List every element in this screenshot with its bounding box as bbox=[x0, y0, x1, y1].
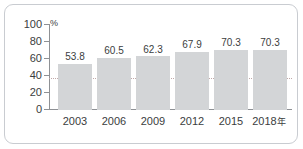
x-axis-unit-label: 年 bbox=[277, 117, 286, 127]
bar-2009[interactable] bbox=[136, 56, 170, 110]
bar-2012[interactable] bbox=[175, 52, 209, 110]
y-tick-100 bbox=[44, 24, 49, 25]
x-tick-label-2018-year: 2018 bbox=[252, 115, 276, 127]
y-axis-unit-label: % bbox=[50, 19, 58, 28]
x-tick-label-2018: 2018年 bbox=[239, 115, 299, 128]
y-tick-label-40: 40 bbox=[2, 70, 42, 81]
bar-group-2012: 67.9 bbox=[175, 24, 209, 110]
bar-value-2018: 70.3 bbox=[247, 38, 293, 48]
y-axis-line bbox=[49, 24, 50, 110]
chart-card: % 100 80 60 40 20 0 53.8 60.5 62.3 bbox=[4, 4, 298, 144]
bar-chart: % 100 80 60 40 20 0 53.8 60.5 62.3 bbox=[5, 5, 299, 145]
bar-2003[interactable] bbox=[58, 64, 92, 110]
y-tick-40 bbox=[44, 75, 49, 76]
y-tick-0 bbox=[44, 109, 49, 110]
y-tick-60 bbox=[44, 58, 49, 59]
y-tick-20 bbox=[44, 92, 49, 93]
y-tick-80 bbox=[44, 41, 49, 42]
bar-group-2009: 62.3 bbox=[136, 24, 170, 110]
y-tick-label-20: 20 bbox=[2, 87, 42, 98]
y-tick-label-0: 0 bbox=[2, 104, 42, 115]
bar-group-2003: 53.8 bbox=[58, 24, 92, 110]
y-tick-label-100: 100 bbox=[2, 19, 42, 30]
bar-group-2015: 70.3 bbox=[214, 24, 248, 110]
bar-2006[interactable] bbox=[97, 58, 131, 110]
y-tick-label-60: 60 bbox=[2, 53, 42, 64]
bar-2018[interactable] bbox=[253, 50, 287, 111]
bar-group-2006: 60.5 bbox=[97, 24, 131, 110]
bar-group-2018: 70.3 bbox=[253, 24, 287, 110]
y-tick-label-80: 80 bbox=[2, 36, 42, 47]
bar-2015[interactable] bbox=[214, 50, 248, 111]
